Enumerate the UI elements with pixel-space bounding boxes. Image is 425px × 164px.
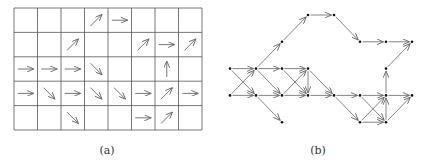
graph-edge [310, 70, 333, 93]
graph-node [281, 121, 284, 124]
graph-node [281, 41, 284, 44]
graph-node [411, 94, 414, 97]
graph-node [307, 94, 310, 97]
graph-node [359, 121, 362, 124]
graph-node [333, 14, 336, 17]
graph-node [281, 94, 284, 97]
grid-arrow-se [90, 88, 102, 100]
grid-arrow-ne [184, 39, 196, 51]
graph-node [385, 67, 388, 70]
graph-edges [232, 15, 411, 122]
caption-a: (a) [99, 144, 114, 157]
graph-edge [258, 44, 281, 67]
graph-node [255, 94, 258, 97]
grid-arrow-ne [137, 39, 149, 51]
figure: (a) (b) [0, 0, 425, 164]
panel-b-directed-graph: (b) [229, 14, 414, 157]
graph-node [255, 67, 258, 70]
grid-arrow-se [114, 88, 126, 100]
graph-edge [336, 97, 359, 120]
graph-node [333, 94, 336, 97]
graph-edge [258, 97, 281, 120]
graph-node [385, 94, 388, 97]
graph-node [385, 41, 388, 44]
grid-arrow-se [43, 88, 55, 100]
graph-node [359, 94, 362, 97]
graph-node [359, 41, 362, 44]
graph-node [411, 41, 414, 44]
graph-node [281, 67, 284, 70]
graph-node [307, 14, 310, 17]
graph-node [385, 121, 388, 124]
grid-arrow-ne [90, 14, 102, 26]
graph-edge [388, 44, 411, 67]
caption-b: (b) [310, 144, 326, 157]
grid-arrow-se [90, 63, 102, 75]
graph-node [229, 67, 232, 70]
grid-arrow-ne [161, 88, 173, 100]
grid-arrow-se [67, 112, 79, 124]
graph-node [307, 67, 310, 70]
graph-edge [388, 97, 411, 120]
grid-arrow-ne [161, 112, 173, 124]
grid-arrow-ne [67, 39, 79, 51]
panel-a-vector-grid: (a) [14, 8, 202, 157]
graph-edge [258, 70, 281, 93]
graph-edge [284, 17, 307, 40]
graph-edge [336, 17, 359, 40]
graph-node [229, 94, 232, 97]
